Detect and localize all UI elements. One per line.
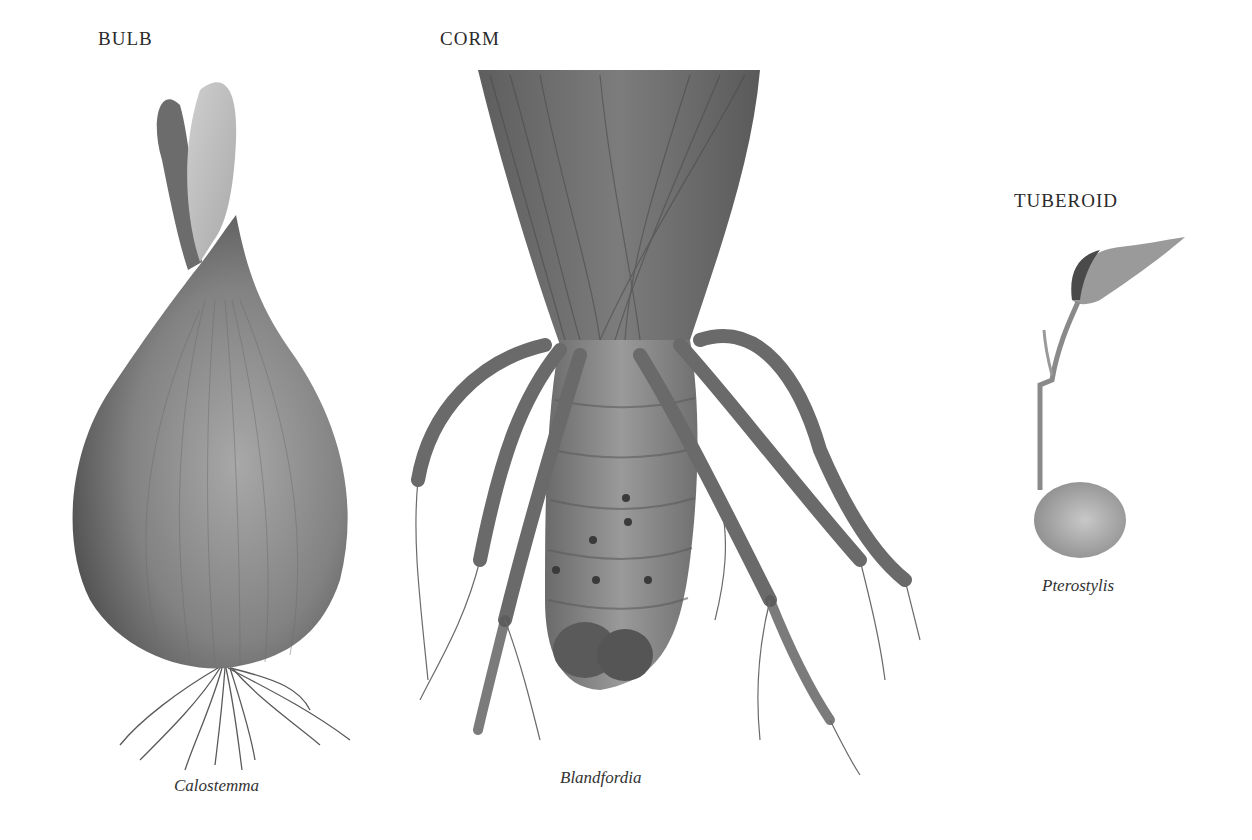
tuberoid-drawing (1034, 237, 1185, 558)
botanical-illustration (0, 0, 1252, 840)
corm-drawing (416, 70, 920, 775)
bulb-drawing (73, 82, 350, 770)
